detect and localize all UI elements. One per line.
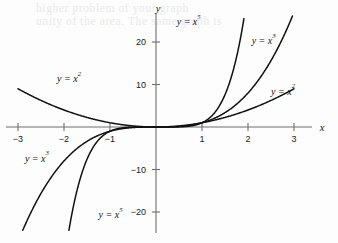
- curve-label: y = x5: [176, 12, 202, 27]
- x-tick-label: −2: [59, 134, 69, 144]
- curve-y-x-3: [23, 16, 293, 230]
- curve-label: y = x2: [56, 69, 82, 84]
- chart-canvas: xy−3−2−11232010−10−20 y = x2y = x3y = x5…: [0, 0, 338, 243]
- curve-label: y = x3: [24, 149, 50, 164]
- figure-container: higher problem of your graph unity of th…: [0, 0, 338, 243]
- y-axis-label: y: [155, 3, 161, 14]
- axes-layer: xy−3−2−11232010−10−20: [6, 3, 325, 233]
- curve-label: y = x5: [98, 205, 124, 220]
- y-tick-label: 10: [136, 80, 146, 90]
- x-tick-label: 2: [245, 134, 250, 144]
- x-tick-label: 3: [291, 134, 296, 144]
- curve-labels-layer: y = x2y = x3y = x5y = x5y = x3y = x2: [24, 12, 296, 220]
- curve-label: y = x3: [251, 31, 277, 46]
- y-tick-label: −10: [131, 165, 146, 175]
- x-tick-label: 1: [199, 134, 204, 144]
- x-axis-label: x: [319, 122, 325, 133]
- x-tick-label: −1: [105, 134, 115, 144]
- y-tick-label: −20: [131, 207, 146, 217]
- power-functions-plot: xy−3−2−11232010−10−20 y = x2y = x3y = x5…: [0, 0, 338, 243]
- x-tick-label: −3: [13, 134, 23, 144]
- y-tick-label: 20: [136, 37, 146, 47]
